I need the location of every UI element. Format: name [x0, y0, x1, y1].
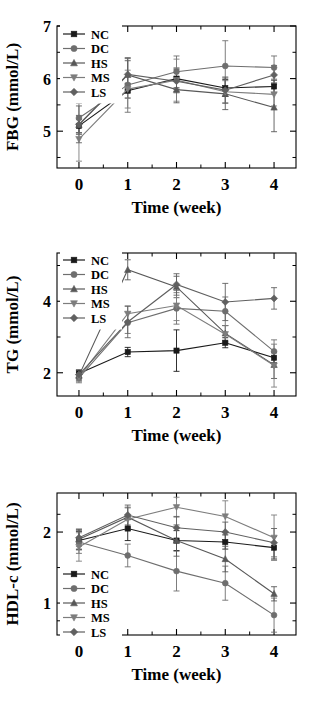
marker-square	[71, 571, 77, 577]
legend-label-hs: HS	[91, 57, 108, 71]
x-tick-label: 4	[270, 642, 279, 661]
x-tick-label: 0	[75, 403, 84, 422]
legend-label-hs: HS	[91, 597, 108, 611]
legend: NCDCHSMSLS	[60, 250, 122, 330]
marker-square	[223, 340, 228, 345]
marker-diamond	[271, 71, 278, 78]
marker-circle	[174, 69, 180, 75]
x-tick-label: 2	[172, 175, 181, 194]
y-tick-label: 4	[43, 293, 51, 310]
marker-square	[223, 539, 228, 544]
marker-circle	[71, 271, 77, 277]
legend: NCDCHSMSLS	[60, 24, 122, 104]
marker-square	[71, 257, 77, 263]
marker-square	[125, 349, 130, 354]
y-axis-title: FBG (mmol/L)	[3, 43, 22, 151]
y-tick-label: 1	[43, 595, 51, 612]
legend-label-dc: DC	[91, 42, 109, 56]
y-tick-label: 6	[43, 71, 51, 88]
legend-label-dc: DC	[91, 268, 109, 282]
marker-square	[271, 84, 276, 89]
marker-circle	[71, 585, 77, 591]
marker-triangle-up	[125, 266, 131, 272]
marker-circle	[125, 553, 131, 559]
marker-diamond	[222, 298, 229, 305]
x-axis-title: Time (week)	[132, 198, 222, 217]
legend-label-ls: LS	[91, 312, 106, 326]
marker-circle	[222, 308, 228, 314]
marker-triangle-down	[76, 136, 82, 142]
x-tick-label: 3	[221, 403, 230, 422]
marker-circle	[271, 612, 277, 618]
marker-circle	[222, 580, 228, 586]
legend-label-nc: NC	[91, 568, 109, 582]
legend-label-hs: HS	[91, 283, 108, 297]
x-tick-label: 1	[123, 403, 132, 422]
legend-label-ms: MS	[91, 611, 110, 625]
y-tick-label: 2	[43, 365, 51, 382]
chart-panel-fbg: 56701234Time (week)FBG (mmol/L)NCDCHSMSL…	[0, 0, 314, 228]
legend-label-ls: LS	[91, 626, 106, 640]
x-tick-label: 4	[270, 175, 279, 194]
x-tick-label: 2	[172, 642, 181, 661]
marker-square	[125, 526, 130, 531]
marker-circle	[271, 348, 277, 354]
legend-label-ls: LS	[91, 86, 106, 100]
y-axis-title: HDL-c (mmol/L)	[3, 502, 22, 625]
x-tick-label: 1	[123, 175, 132, 194]
x-axis-title: Time (week)	[132, 426, 222, 445]
x-tick-label: 1	[123, 642, 132, 661]
hdlc-chart: 1201234Time (week)HDL-c (mmol/L)NCDCHSMS…	[0, 478, 314, 719]
legend-label-ms: MS	[91, 297, 110, 311]
legend: NCDCHSMSLS	[60, 564, 122, 644]
marker-circle	[71, 45, 77, 51]
marker-square	[71, 31, 77, 37]
y-axis-title: TG (mmol/L)	[3, 276, 22, 374]
legend-label-dc: DC	[91, 582, 109, 596]
x-tick-label: 0	[75, 642, 84, 661]
marker-triangle-up	[271, 590, 277, 596]
tg-chart: 2401234Time (week)TG (mmol/L)NCDCHSMSLS	[0, 228, 314, 478]
y-tick-label: 2	[43, 524, 51, 541]
y-tick-label: 7	[43, 18, 51, 35]
marker-square	[174, 348, 179, 353]
legend-label-nc: NC	[91, 254, 109, 268]
marker-circle	[222, 63, 228, 69]
marker-circle	[271, 65, 277, 71]
legend-label-nc: NC	[91, 28, 109, 42]
chart-panel-hdl: 1201234Time (week)HDL-c (mmol/L)NCDCHSMS…	[0, 478, 314, 719]
y-tick-label: 5	[43, 123, 51, 140]
x-axis-title: Time (week)	[132, 665, 222, 684]
x-tick-label: 3	[221, 642, 230, 661]
chart-panel-tg: 2401234Time (week)TG (mmol/L)NCDCHSMSLS	[0, 228, 314, 478]
marker-diamond	[271, 295, 278, 302]
marker-circle	[76, 115, 82, 121]
marker-circle	[174, 568, 180, 574]
marker-square	[271, 355, 276, 360]
figure-container: 56701234Time (week)FBG (mmol/L)NCDCHSMSL…	[0, 0, 314, 719]
x-tick-label: 3	[221, 175, 230, 194]
fbg-chart: 56701234Time (week)FBG (mmol/L)NCDCHSMSL…	[0, 0, 314, 228]
legend-label-ms: MS	[91, 71, 110, 85]
x-tick-label: 0	[75, 175, 84, 194]
x-tick-label: 2	[172, 403, 181, 422]
x-tick-label: 4	[270, 403, 279, 422]
